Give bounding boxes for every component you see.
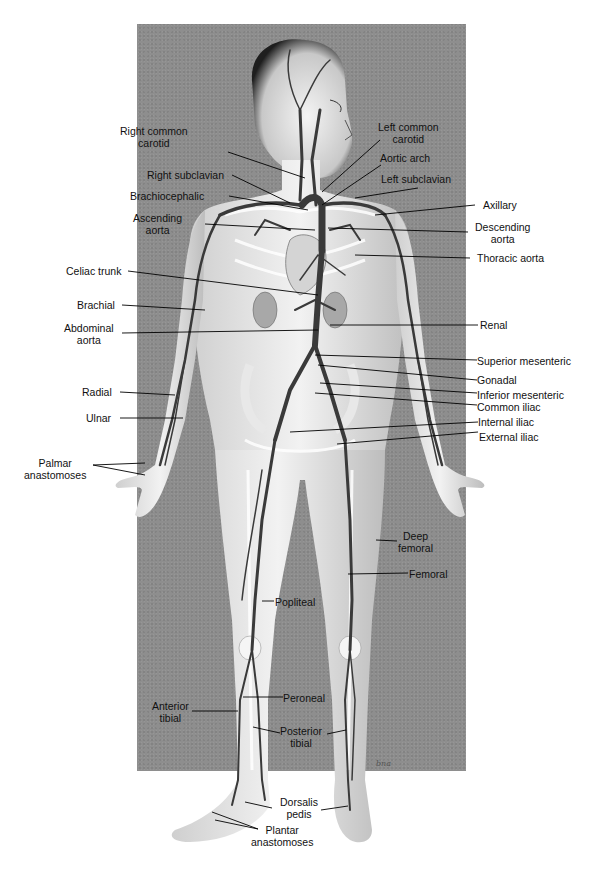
label-popliteal: Popliteal: [275, 596, 315, 608]
label-posterior-tibial: Posterior tibial: [280, 725, 322, 749]
label-text: Brachiocephalic: [130, 190, 204, 202]
label-text: Ulnar: [86, 412, 111, 424]
label-femoral: Femoral: [409, 568, 448, 580]
label-peroneal: Peroneal: [283, 692, 325, 704]
label-text: Inferior mesenteric: [477, 389, 564, 401]
label-brachiocephalic: Brachiocephalic: [130, 190, 204, 202]
label-inferior-mesenteric: Inferior mesenteric: [477, 389, 564, 401]
label-text: Popliteal: [275, 596, 315, 608]
label-text: Anterior tibial: [152, 700, 189, 724]
label-text: Abdominal aorta: [64, 322, 114, 346]
label-descending-aorta: Descending aorta: [475, 221, 530, 245]
label-anterior-tibial: Anterior tibial: [152, 700, 189, 724]
label-renal: Renal: [480, 319, 507, 331]
label-text: Descending aorta: [475, 221, 530, 245]
label-right-subclavian: Right subclavian: [147, 169, 224, 181]
label-text: Renal: [480, 319, 507, 331]
label-ascending-aorta: Ascending aorta: [133, 212, 182, 236]
label-left-subclavian: Left subclavian: [381, 173, 451, 185]
label-text: Peroneal: [283, 692, 325, 704]
label-text: Ascending aorta: [133, 212, 182, 236]
label-aortic-arch: Aortic arch: [380, 152, 430, 164]
label-dorsalis-pedis: Dorsalis pedis: [280, 796, 318, 820]
label-text: Axillary: [483, 199, 517, 211]
kneecaps: [239, 636, 361, 660]
label-celiac-trunk: Celiac trunk: [66, 265, 121, 277]
artist-signature: bna: [376, 759, 391, 768]
label-text: Brachial: [77, 299, 115, 311]
label-superior-mesenteric: Superior mesenteric: [477, 355, 571, 367]
label-ulnar: Ulnar: [86, 412, 111, 424]
label-left-common-carotid: Left common carotid: [378, 121, 439, 145]
label-text: Aortic arch: [380, 152, 430, 164]
label-plantar-anastomoses: Plantar anastomoses: [251, 824, 313, 848]
label-internal-iliac: Internal iliac: [478, 416, 534, 428]
label-text: External iliac: [479, 431, 539, 443]
label-text: Palmar anastomoses: [24, 457, 86, 481]
label-text: Radial: [82, 386, 112, 398]
label-text: Posterior tibial: [280, 725, 322, 749]
label-text: Femoral: [409, 568, 448, 580]
label-text: Celiac trunk: [66, 265, 121, 277]
label-thoracic-aorta: Thoracic aorta: [477, 252, 544, 264]
label-text: Internal iliac: [478, 416, 534, 428]
label-text: Common iliac: [477, 401, 541, 413]
label-text: Gonadal: [477, 374, 517, 386]
label-axillary: Axillary: [483, 199, 517, 211]
label-text: Deep femoral: [398, 530, 433, 554]
label-text: Dorsalis pedis: [280, 796, 318, 820]
artery-diagram: Right common carotid Left common carotid…: [0, 0, 598, 881]
label-text: Plantar anastomoses: [251, 824, 313, 848]
label-radial: Radial: [82, 386, 112, 398]
label-right-common-carotid: Right common carotid: [120, 125, 188, 149]
label-abdominal-aorta: Abdominal aorta: [64, 322, 114, 346]
label-palmar-anastomoses: Palmar anastomoses: [24, 457, 86, 481]
label-deep-femoral: Deep femoral: [398, 530, 433, 554]
label-text: Left common carotid: [378, 121, 439, 145]
label-text: Left subclavian: [381, 173, 451, 185]
label-text: Right common carotid: [120, 125, 188, 149]
label-text: Thoracic aorta: [477, 252, 544, 264]
label-external-iliac: External iliac: [479, 431, 539, 443]
label-text: Right subclavian: [147, 169, 224, 181]
label-common-iliac: Common iliac: [477, 401, 541, 413]
label-brachial: Brachial: [77, 299, 115, 311]
label-gonadal: Gonadal: [477, 374, 517, 386]
label-text: Superior mesenteric: [477, 355, 571, 367]
